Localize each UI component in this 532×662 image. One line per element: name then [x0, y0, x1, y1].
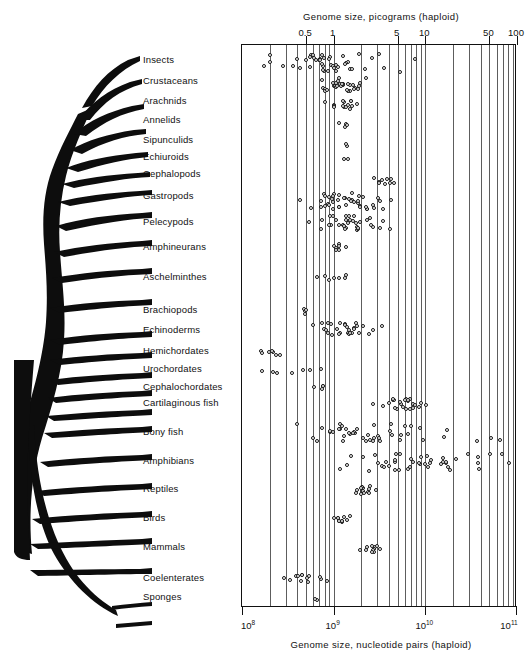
data-point — [338, 321, 342, 325]
data-point — [417, 405, 421, 409]
data-point — [298, 66, 302, 70]
data-point — [376, 461, 380, 465]
data-point — [389, 177, 393, 181]
data-point — [341, 439, 345, 443]
data-point — [332, 105, 336, 109]
data-point — [334, 69, 338, 73]
data-point — [363, 67, 367, 71]
data-point — [332, 276, 336, 280]
data-point — [408, 465, 412, 469]
gridline — [398, 45, 399, 606]
data-point — [500, 452, 504, 456]
data-point — [311, 323, 315, 327]
gridline — [489, 45, 490, 606]
data-point — [337, 276, 341, 280]
data-point — [361, 195, 365, 199]
data-point — [344, 427, 348, 431]
data-point — [364, 76, 368, 80]
top-major-tick-5 — [517, 36, 518, 45]
data-point — [454, 457, 458, 461]
data-point — [393, 406, 397, 410]
data-point — [291, 64, 295, 68]
data-point — [356, 226, 360, 230]
data-point — [348, 331, 352, 335]
data-point — [344, 245, 348, 249]
data-point — [488, 452, 492, 456]
data-point — [368, 438, 372, 442]
data-point — [320, 387, 324, 391]
data-point — [359, 486, 363, 490]
data-point — [298, 198, 302, 202]
data-point — [385, 177, 389, 181]
data-point — [378, 199, 382, 203]
gridline — [334, 45, 335, 606]
data-point — [346, 103, 350, 107]
data-point — [336, 198, 340, 202]
data-point — [397, 468, 401, 472]
data-point — [304, 58, 308, 62]
gridline — [319, 45, 320, 606]
data-point — [477, 467, 481, 471]
data-point — [364, 439, 368, 443]
gridline — [469, 45, 470, 606]
data-point — [308, 368, 312, 372]
data-point — [319, 227, 323, 231]
data-point — [424, 403, 428, 407]
data-point — [392, 181, 396, 185]
data-point — [337, 332, 341, 336]
data-point — [381, 404, 385, 408]
data-point — [278, 353, 282, 357]
gridline — [389, 45, 390, 606]
data-point — [315, 439, 319, 443]
data-point — [313, 597, 317, 601]
data-point — [489, 436, 493, 440]
data-point — [260, 369, 264, 373]
data-point — [315, 275, 319, 279]
data-point — [301, 368, 305, 372]
data-point — [331, 430, 335, 434]
data-point — [270, 349, 274, 353]
data-point — [423, 462, 427, 466]
data-point — [364, 205, 368, 209]
top-tick-label-0: 0.5 — [298, 27, 311, 38]
data-point — [413, 57, 417, 61]
gridline — [513, 45, 514, 606]
bottom-tick-label-2: 1010 — [415, 619, 433, 631]
data-point — [300, 573, 304, 577]
data-point — [394, 452, 398, 456]
data-point — [388, 227, 392, 231]
data-point — [309, 206, 313, 210]
data-point — [374, 488, 378, 492]
data-point — [409, 424, 413, 428]
data-point — [314, 58, 318, 62]
data-point — [350, 67, 354, 71]
data-point — [398, 70, 402, 74]
data-point — [411, 460, 415, 464]
data-point — [345, 518, 349, 522]
top-tick-label-3: 10 — [419, 27, 430, 38]
data-point — [346, 157, 350, 161]
top-major-tick-3 — [425, 36, 426, 45]
data-point — [421, 438, 425, 442]
data-point — [377, 181, 381, 185]
data-point — [323, 100, 327, 104]
data-point — [381, 219, 385, 223]
data-point — [428, 461, 432, 465]
data-point — [358, 220, 362, 224]
data-point — [366, 433, 370, 437]
data-point — [322, 56, 326, 60]
gridline — [497, 45, 498, 606]
data-point — [398, 400, 402, 404]
data-point — [370, 56, 374, 60]
data-point — [507, 461, 511, 465]
data-point — [308, 65, 312, 69]
data-point — [312, 385, 316, 389]
data-point — [331, 194, 335, 198]
data-point — [367, 332, 371, 336]
bottom-major-tick-0 — [242, 606, 243, 615]
data-point — [341, 99, 345, 103]
data-point — [371, 328, 375, 332]
data-point — [371, 203, 375, 207]
data-point — [295, 422, 299, 426]
data-point — [327, 57, 331, 61]
